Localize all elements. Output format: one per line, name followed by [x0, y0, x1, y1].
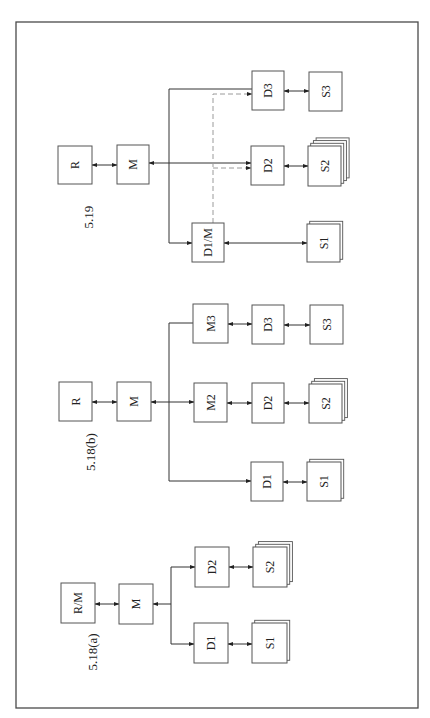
- block-label: D1: [204, 636, 218, 651]
- figure-caption: 5.18(a): [85, 633, 100, 670]
- block-label: R: [68, 161, 82, 169]
- block-s2: S2: [308, 138, 349, 186]
- block-s2: S2: [253, 542, 292, 587]
- block-s3: S3: [309, 72, 342, 111]
- connector-arrow: [169, 89, 252, 243]
- block-m: M: [119, 584, 153, 624]
- block-label: S2: [319, 397, 333, 410]
- connector-arrow: [213, 94, 252, 223]
- fig-5-18a: R/MMD2S2D1S15.18(a): [61, 542, 292, 671]
- block-d2: D2: [195, 547, 229, 587]
- block-s1: S1: [307, 221, 343, 262]
- block-r: R: [59, 382, 92, 421]
- block-label: S3: [320, 318, 334, 331]
- block-label: S1: [317, 475, 331, 488]
- block-label: S3: [319, 85, 333, 98]
- figure-caption: 5.18(b): [83, 433, 98, 471]
- block-label: M2: [204, 394, 218, 411]
- block-d3: D3: [252, 71, 284, 110]
- fig-5-19: RMD3S3D2S2D1/MS15.19: [58, 71, 349, 262]
- block-m3: M3: [193, 304, 228, 343]
- block-label: S1: [317, 237, 331, 250]
- block-rm: R/M: [61, 583, 95, 623]
- figure-caption: 5.19: [81, 206, 96, 229]
- block-label: D2: [261, 158, 275, 173]
- block-label: M3: [204, 315, 218, 332]
- block-m2: M2: [194, 383, 227, 422]
- block-label: D3: [261, 83, 275, 98]
- fig-5-18b: RMM3D3S3M2D2S2D1S15.18(b): [59, 304, 347, 501]
- block-d1: D1: [194, 623, 228, 663]
- block-label: D2: [205, 560, 219, 575]
- block-label: M: [127, 396, 141, 407]
- block-s3: S3: [310, 305, 343, 344]
- block-s1: S1: [252, 620, 290, 663]
- block-label: D1: [260, 474, 274, 489]
- block-label: S2: [318, 160, 332, 173]
- block-d1m: D1/M: [192, 223, 224, 262]
- block-label: M: [126, 159, 140, 170]
- diagram-canvas: RMD3S3D2S2D1/MS15.19RMM3D3S3M2D2S2D1S15.…: [0, 0, 430, 718]
- block-m: M: [117, 382, 151, 421]
- block-d1: D1: [251, 462, 283, 501]
- block-label: R: [69, 397, 83, 405]
- block-label: S1: [263, 637, 277, 650]
- block-label: S2: [263, 561, 277, 574]
- block-d2: D2: [251, 146, 284, 185]
- block-m: M: [117, 145, 149, 184]
- block-s2: S2: [309, 379, 347, 423]
- block-label: D2: [261, 396, 275, 411]
- block-r: R: [58, 146, 92, 184]
- block-label: M: [129, 598, 143, 609]
- block-d2: D2: [252, 383, 284, 423]
- block-s1: S1: [307, 459, 344, 501]
- block-d3: D3: [252, 305, 284, 344]
- block-label: D1/M: [201, 228, 215, 257]
- block-label: R/M: [71, 592, 85, 614]
- block-label: D3: [261, 317, 275, 332]
